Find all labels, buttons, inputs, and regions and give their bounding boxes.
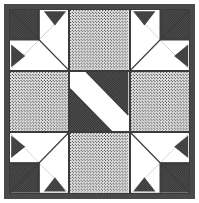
corner-bottom-right-artwork <box>131 133 189 193</box>
patch-edge-middle-left <box>9 71 69 133</box>
patch-center-diagonal-band <box>69 71 129 133</box>
patch-edge-bottom-center <box>69 132 129 194</box>
edge-middle-left-artwork <box>10 72 68 132</box>
center-diagonal-band-artwork <box>70 72 128 132</box>
patch-edge-middle-right <box>130 71 190 133</box>
corner-top-left-artwork <box>10 10 68 70</box>
block-outer-border <box>4 4 195 199</box>
quilt-block-figure <box>0 0 199 203</box>
edge-middle-right-artwork <box>131 72 189 132</box>
patch-grid <box>9 9 190 194</box>
patch-corner-bottom-left <box>9 132 69 194</box>
edge-top-center-artwork <box>70 10 128 70</box>
patch-corner-top-right <box>130 9 190 71</box>
edge-bottom-center-artwork <box>70 133 128 193</box>
patch-edge-top-center <box>69 9 129 71</box>
patch-corner-bottom-right <box>130 132 190 194</box>
patch-corner-top-left <box>9 9 69 71</box>
corner-bottom-left-artwork <box>10 133 68 193</box>
corner-top-right-artwork <box>131 10 189 70</box>
